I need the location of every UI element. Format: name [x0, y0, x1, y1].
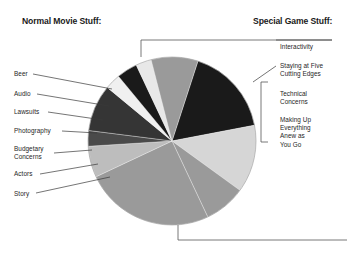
callout-label: Making Up Everything Anew as You Go — [280, 116, 311, 149]
callout-label: Beer — [14, 70, 28, 78]
leader-line-staying — [253, 66, 276, 82]
callout-label: Photography — [14, 127, 51, 135]
callout-label: Lawsuits — [14, 108, 39, 116]
leader-line — [54, 150, 92, 153]
leader-line — [37, 94, 109, 106]
callout-label: Story — [14, 190, 29, 198]
bracket-right-group — [261, 82, 268, 142]
callout-label: Staying at Five Cutting Edges — [280, 62, 323, 78]
callout-label: Actors — [14, 170, 32, 178]
pie-chart-figure: Normal Movie Stuff: Special Game Stuff: … — [0, 0, 347, 260]
leader-line — [33, 74, 112, 89]
callout-label: Audio — [14, 90, 31, 98]
callout-label: Interactivity — [280, 43, 313, 51]
callout-label: Technical Concerns — [280, 90, 308, 106]
leader-line — [40, 164, 98, 174]
leader-line — [36, 177, 110, 193]
bracket-bottom — [178, 225, 347, 240]
callout-label: Budgetary Concerns — [14, 145, 44, 161]
pie-slices — [88, 57, 256, 225]
